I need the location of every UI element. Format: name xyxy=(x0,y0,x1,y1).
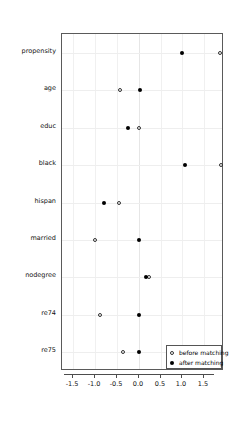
plot-panel xyxy=(61,33,223,370)
data-point-after-matching-nodegree xyxy=(144,275,148,279)
x-tick-label: 0.0 xyxy=(133,380,143,388)
horizontal-gridline xyxy=(62,53,222,54)
x-tick xyxy=(203,374,204,378)
vertical-gridline xyxy=(139,34,140,369)
data-point-before-matching-nodegree xyxy=(147,275,151,279)
x-tick xyxy=(138,374,139,378)
vertical-gridline xyxy=(73,34,74,369)
data-point-before-matching-re75 xyxy=(121,350,125,354)
y-axis-label-age: age xyxy=(44,85,56,92)
y-axis-label-black: black xyxy=(39,160,56,167)
vertical-gridline xyxy=(161,34,162,369)
x-tick-label: 0.5 xyxy=(155,380,165,388)
x-tick xyxy=(181,374,182,378)
data-point-after-matching-hispan xyxy=(102,201,106,205)
x-tick-label: 1.5 xyxy=(198,380,208,388)
vertical-gridline xyxy=(204,34,205,369)
x-tick xyxy=(116,374,117,378)
data-point-before-matching-educ xyxy=(137,126,141,130)
y-axis-label-re75: re75 xyxy=(41,347,56,354)
y-axis-category-labels: propensityageeducblackhispanmarriednodeg… xyxy=(0,33,56,370)
y-axis-label-propensity: propensity xyxy=(22,48,56,55)
data-point-before-matching-age xyxy=(118,88,122,92)
legend-item: after matching xyxy=(170,358,219,368)
filled-circle-icon xyxy=(170,361,174,365)
data-point-before-matching-hispan xyxy=(117,201,121,205)
vertical-gridline xyxy=(95,34,96,369)
x-tick xyxy=(72,374,73,378)
y-axis-label-educ: educ xyxy=(40,123,56,130)
vertical-gridline xyxy=(182,34,183,369)
horizontal-gridline xyxy=(62,240,222,241)
x-tick-label: -1.0 xyxy=(88,380,101,388)
horizontal-gridline xyxy=(62,277,222,278)
data-point-before-matching-re74 xyxy=(98,313,102,317)
horizontal-gridline xyxy=(62,90,222,91)
y-axis-label-married: married xyxy=(31,235,56,242)
legend-label: after matching xyxy=(179,359,223,367)
legend: before matchingafter matching xyxy=(166,345,222,369)
x-axis: -1.5-1.0-0.50.00.51.01.5 xyxy=(61,374,223,390)
x-tick-label: -1.5 xyxy=(66,380,79,388)
data-point-after-matching-propensity xyxy=(180,51,184,55)
data-point-after-matching-educ xyxy=(126,126,130,130)
horizontal-gridline xyxy=(62,165,222,166)
horizontal-gridline xyxy=(62,315,222,316)
y-axis-label-re74: re74 xyxy=(41,310,56,317)
horizontal-gridline xyxy=(62,128,222,129)
love-plot-figure: propensityageeducblackhispanmarriednodeg… xyxy=(0,0,238,421)
data-point-after-matching-age xyxy=(138,88,142,92)
data-point-before-matching-black xyxy=(219,163,223,167)
data-point-after-matching-re74 xyxy=(137,313,141,317)
y-axis-label-hispan: hispan xyxy=(34,198,56,205)
data-point-after-matching-married xyxy=(137,238,141,242)
x-tick xyxy=(94,374,95,378)
x-tick-label: -0.5 xyxy=(110,380,123,388)
data-point-after-matching-black xyxy=(183,163,187,167)
data-point-after-matching-re75 xyxy=(137,350,141,354)
horizontal-gridline xyxy=(62,203,222,204)
data-point-before-matching-married xyxy=(93,238,97,242)
open-circle-icon xyxy=(170,351,174,355)
legend-item: before matching xyxy=(170,348,219,358)
x-tick-label: 1.0 xyxy=(176,380,186,388)
x-axis-line xyxy=(64,374,214,375)
legend-label: before matching xyxy=(179,349,228,357)
y-axis-label-nodegree: nodegree xyxy=(25,272,56,279)
data-point-before-matching-propensity xyxy=(218,51,222,55)
x-tick xyxy=(160,374,161,378)
